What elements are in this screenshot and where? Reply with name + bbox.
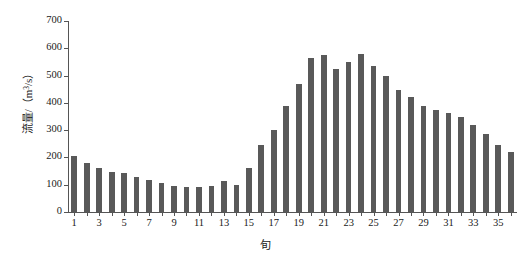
x-tick-mark-21 <box>324 212 325 216</box>
bar <box>283 106 289 212</box>
bar <box>458 117 464 213</box>
x-tick-label: 31 <box>443 217 454 228</box>
y-tick-label: 500 <box>46 69 62 80</box>
x-tick-label: 11 <box>194 217 204 228</box>
plot-area: 0100200300400500600700 13579111315171921… <box>68 21 517 212</box>
y-tick-label: 300 <box>46 123 62 134</box>
bar <box>134 177 140 212</box>
bar <box>246 168 252 212</box>
x-tick-mark-6 <box>137 212 138 216</box>
bar <box>333 69 339 212</box>
x-tick-mark-27 <box>399 212 400 216</box>
x-tick-label: 33 <box>468 217 479 228</box>
bar <box>196 187 202 212</box>
x-tick-mark-14 <box>236 212 237 216</box>
y-axis-title-suffix: /s） <box>19 68 35 86</box>
x-tick-mark-36 <box>511 212 512 216</box>
x-tick-mark-13 <box>224 212 225 216</box>
bar <box>184 187 190 212</box>
y-axis-title: 流量/（m3/s） <box>16 0 38 206</box>
bar <box>508 152 514 212</box>
x-tick-mark-3 <box>99 212 100 216</box>
bar <box>159 183 165 212</box>
x-tick-mark-2 <box>87 212 88 216</box>
x-tick-label: 13 <box>219 217 230 228</box>
x-tick-label: 5 <box>122 217 127 228</box>
x-tick-label: 25 <box>368 217 379 228</box>
x-tick-label: 15 <box>244 217 255 228</box>
x-tick-mark-34 <box>486 212 487 216</box>
x-tick-label: 7 <box>146 217 151 228</box>
x-tick-label: 23 <box>343 217 354 228</box>
x-tick-mark-31 <box>448 212 449 216</box>
x-tick-label: 19 <box>293 217 304 228</box>
x-tick-mark-7 <box>149 212 150 216</box>
x-tick-mark-28 <box>411 212 412 216</box>
bar <box>446 113 452 212</box>
x-tick-mark-26 <box>386 212 387 216</box>
x-tick-mark-29 <box>423 212 424 216</box>
bar <box>84 163 90 212</box>
x-tick-label: 35 <box>493 217 504 228</box>
bar <box>495 145 501 212</box>
y-tick-label: 400 <box>46 96 62 107</box>
x-tick-mark-32 <box>461 212 462 216</box>
y-tick-label: 700 <box>46 14 62 25</box>
bar <box>483 134 489 212</box>
y-tick-label: 600 <box>46 41 62 52</box>
x-tick-label: 3 <box>97 217 102 228</box>
x-tick-mark-30 <box>436 212 437 216</box>
x-tick-label: 21 <box>318 217 329 228</box>
bar-series <box>68 21 517 212</box>
x-tick-mark-12 <box>211 212 212 216</box>
x-tick-mark-11 <box>199 212 200 216</box>
x-axis-title: 旬 <box>0 236 531 252</box>
x-tick-mark-15 <box>249 212 250 216</box>
x-tick-label: 29 <box>418 217 429 228</box>
x-tick-label: 17 <box>269 217 280 228</box>
y-tick-label: 100 <box>46 178 62 189</box>
x-tick-mark-24 <box>361 212 362 216</box>
bar <box>358 54 364 212</box>
y-tick-label: 200 <box>46 150 62 161</box>
bar <box>221 181 227 212</box>
x-tick-label: 27 <box>393 217 404 228</box>
x-tick-mark-23 <box>349 212 350 216</box>
bar <box>308 58 314 212</box>
y-tick-mark <box>64 212 68 213</box>
bar <box>470 125 476 212</box>
bar <box>209 186 215 212</box>
bar <box>408 97 414 212</box>
y-tick-label: 0 <box>57 205 62 216</box>
bar <box>346 62 352 212</box>
bar <box>71 156 77 212</box>
x-tick-mark-25 <box>374 212 375 216</box>
bar <box>121 173 127 212</box>
x-tick-mark-20 <box>311 212 312 216</box>
bar <box>296 84 302 212</box>
bar <box>383 76 389 212</box>
bar <box>234 185 240 212</box>
x-tick-label: 9 <box>171 217 176 228</box>
x-tick-mark-1 <box>74 212 75 216</box>
x-tick-mark-10 <box>186 212 187 216</box>
bar <box>371 66 377 212</box>
x-axis-line <box>68 212 517 213</box>
bar <box>146 180 152 212</box>
bar <box>96 168 102 212</box>
x-tick-label: 1 <box>72 217 77 228</box>
x-tick-mark-19 <box>299 212 300 216</box>
x-tick-mark-17 <box>274 212 275 216</box>
y-axis-title-prefix: 流量/（m <box>19 90 35 135</box>
x-tick-mark-4 <box>112 212 113 216</box>
bar <box>321 55 327 212</box>
x-tick-mark-9 <box>174 212 175 216</box>
bar <box>171 186 177 212</box>
x-tick-mark-5 <box>124 212 125 216</box>
x-tick-mark-22 <box>336 212 337 216</box>
chart-figure: 流量/（m3/s） 旬 0100200300400500600700 13579… <box>0 0 531 267</box>
bar <box>109 172 115 212</box>
bar <box>396 90 402 212</box>
x-tick-mark-35 <box>498 212 499 216</box>
x-tick-mark-16 <box>261 212 262 216</box>
